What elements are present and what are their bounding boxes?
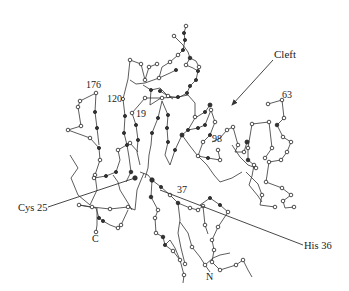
- label-his36: His 36: [304, 240, 332, 251]
- label-residue-120: 120: [107, 93, 122, 104]
- label-residue-37: 37: [177, 184, 187, 195]
- label-n-terminus: N: [206, 271, 213, 282]
- label-cys25: Cys 25: [18, 202, 47, 213]
- label-residue-98: 98: [212, 133, 222, 144]
- label-c-terminus: C: [92, 233, 99, 244]
- alpha-carbon-nodes: [66, 24, 296, 277]
- label-residue-63: 63: [282, 89, 292, 100]
- his36-leader-line: [160, 190, 303, 245]
- label-residue-19: 19: [136, 108, 146, 119]
- protein-backbone-diagram: Cleft 176 120 19 98 63 37 Cys 25 His 36 …: [0, 0, 349, 291]
- label-cleft: Cleft: [274, 48, 296, 60]
- backbone-chain: [68, 26, 294, 283]
- label-residue-176: 176: [86, 79, 101, 90]
- cleft-arrow: [232, 60, 273, 105]
